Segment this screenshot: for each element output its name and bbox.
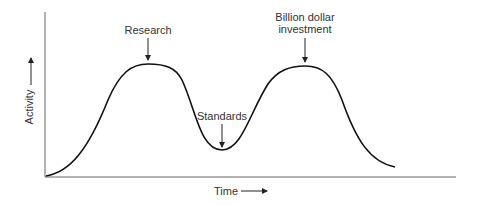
annotation-research-label: Research	[124, 24, 171, 36]
annotation-standards-label: Standards	[197, 110, 248, 122]
annotation-investment-label-line2: investment	[278, 23, 331, 35]
two-elephants-diagram: Research Standards Billion dollar invest…	[0, 0, 477, 205]
x-axis-label: Time	[214, 185, 238, 197]
y-axis-label: Activity	[23, 89, 35, 124]
annotation-investment-label-line1: Billion dollar	[275, 11, 335, 23]
